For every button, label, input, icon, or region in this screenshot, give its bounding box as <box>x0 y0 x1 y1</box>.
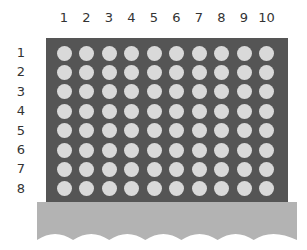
peg-hole <box>147 46 162 61</box>
peg-hole <box>237 84 252 99</box>
row-label: 7 <box>14 162 28 178</box>
peg-hole <box>147 162 162 177</box>
peg-hole <box>147 181 162 196</box>
peg-hole <box>124 143 139 158</box>
peg-hole <box>57 143 72 158</box>
peg-hole <box>214 123 229 138</box>
peg-hole <box>192 181 207 196</box>
peg-hole <box>147 123 162 138</box>
peg-hole <box>214 104 229 119</box>
row-label: 4 <box>14 104 28 120</box>
column-label: 6 <box>167 11 187 24</box>
peg-hole <box>169 143 184 158</box>
row-label: 2 <box>14 65 28 81</box>
peg-hole <box>102 181 117 196</box>
column-label: 8 <box>212 11 232 24</box>
column-label: 5 <box>144 11 164 24</box>
row-label: 5 <box>14 124 28 140</box>
peg-hole <box>124 104 139 119</box>
peg-hole <box>79 104 94 119</box>
peg-hole <box>214 65 229 80</box>
peg-hole <box>169 65 184 80</box>
peg-hole <box>57 123 72 138</box>
peg-hole <box>214 162 229 177</box>
column-label: 3 <box>99 11 119 24</box>
peg-hole <box>124 84 139 99</box>
peg-hole <box>57 104 72 119</box>
peg-hole <box>147 84 162 99</box>
peg-hole <box>79 181 94 196</box>
peg-hole <box>124 123 139 138</box>
peg-hole <box>102 65 117 80</box>
peg-hole <box>124 162 139 177</box>
peg-hole <box>147 104 162 119</box>
row-label: 6 <box>14 143 28 159</box>
peg-hole <box>169 84 184 99</box>
peg-hole <box>214 84 229 99</box>
peg-hole <box>147 65 162 80</box>
peg-hole <box>259 65 274 80</box>
peg-hole <box>237 181 252 196</box>
peg-hole <box>124 181 139 196</box>
peg-hole <box>192 123 207 138</box>
column-label: 2 <box>77 11 97 24</box>
peg-hole <box>102 123 117 138</box>
column-label: 1 <box>54 11 74 24</box>
peg-hole <box>214 46 229 61</box>
peg-hole <box>259 181 274 196</box>
peg-hole <box>79 123 94 138</box>
peg-hole <box>259 104 274 119</box>
peg-board <box>46 38 288 203</box>
peg-hole <box>79 143 94 158</box>
peg-hole <box>169 123 184 138</box>
peg-hole <box>214 181 229 196</box>
peg-hole <box>259 162 274 177</box>
peg-hole <box>79 65 94 80</box>
peg-hole <box>214 143 229 158</box>
peg-hole <box>79 84 94 99</box>
column-label: 9 <box>234 11 254 24</box>
peg-hole <box>237 143 252 158</box>
peg-hole <box>102 162 117 177</box>
peg-hole <box>259 123 274 138</box>
peg-hole <box>57 65 72 80</box>
peg-hole <box>259 46 274 61</box>
column-label: 10 <box>257 11 277 24</box>
peg-hole <box>102 143 117 158</box>
column-label: 4 <box>122 11 142 24</box>
row-label: 1 <box>14 46 28 62</box>
peg-hole <box>124 65 139 80</box>
peg-hole <box>57 46 72 61</box>
peg-hole <box>192 84 207 99</box>
peg-hole <box>237 162 252 177</box>
peg-hole <box>169 162 184 177</box>
column-label: 7 <box>189 11 209 24</box>
row-label: 3 <box>14 85 28 101</box>
peg-hole <box>192 65 207 80</box>
peg-hole <box>169 46 184 61</box>
peg-hole <box>79 162 94 177</box>
peg-hole <box>57 84 72 99</box>
peg-hole <box>169 104 184 119</box>
peg-hole <box>192 46 207 61</box>
peg-hole <box>237 46 252 61</box>
peg-hole <box>57 162 72 177</box>
peg-hole <box>57 181 72 196</box>
peg-hole <box>169 181 184 196</box>
peg-hole <box>192 143 207 158</box>
peg-hole <box>192 104 207 119</box>
peg-hole <box>124 46 139 61</box>
peg-hole <box>259 143 274 158</box>
peg-hole <box>259 84 274 99</box>
peg-hole <box>192 162 207 177</box>
peg-hole <box>237 65 252 80</box>
peg-hole <box>102 46 117 61</box>
peg-hole <box>102 104 117 119</box>
board-base <box>37 202 297 242</box>
peg-hole <box>237 123 252 138</box>
peg-hole <box>147 143 162 158</box>
peg-hole <box>79 46 94 61</box>
peg-hole <box>237 104 252 119</box>
peg-hole <box>102 84 117 99</box>
row-label: 8 <box>14 182 28 198</box>
